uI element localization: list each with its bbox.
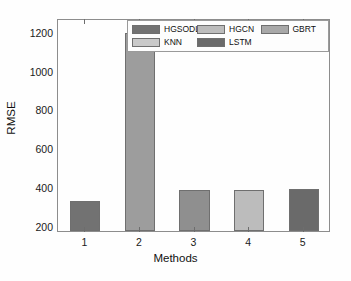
legend-swatch-icon [197, 38, 225, 47]
legend-swatch-icon [132, 38, 160, 47]
y-tick-label: 200 [5, 222, 53, 232]
x-axis-title: Methods [0, 252, 351, 264]
legend-entry: HGCN [197, 25, 261, 34]
legend-label: GBRT [293, 25, 316, 34]
bar [179, 190, 209, 231]
legend-label: LSTM [229, 38, 252, 47]
legend-row: KNNLSTM [132, 37, 324, 48]
x-tick-label: 2 [136, 236, 142, 248]
y-tick-label: 400 [5, 183, 53, 193]
bar [234, 190, 264, 231]
x-tick-mark [84, 227, 85, 232]
y-tick-label: 600 [5, 144, 53, 154]
legend-entry: HGSODL-TFF [132, 25, 197, 34]
x-tick-mark [139, 227, 140, 232]
y-tick-label: 1000 [5, 67, 53, 77]
x-tick-label: 3 [191, 236, 197, 248]
legend-swatch-icon [132, 25, 160, 34]
x-tick-mark [194, 227, 195, 232]
legend-row: HGSODL-TFFHGCNGBRT [132, 24, 324, 35]
legend-label: KNN [164, 38, 182, 47]
x-tick-mark [303, 227, 304, 232]
legend-entry: LSTM [197, 38, 262, 47]
x-tick-label: 4 [245, 236, 251, 248]
legend-entry: GBRT [261, 25, 325, 34]
figure-canvas: RMSE 20040060080010001200 12345 Methods … [0, 0, 351, 281]
bar [125, 33, 155, 231]
legend-swatch-icon [197, 25, 225, 34]
x-tick-mark-top [84, 19, 85, 24]
x-tick-label: 1 [81, 236, 87, 248]
legend-entry: KNN [132, 38, 197, 47]
legend-label: HGCN [229, 25, 254, 34]
y-tick-label: 800 [5, 105, 53, 115]
bar [289, 189, 319, 231]
x-tick-mark [248, 227, 249, 232]
legend-swatch-icon [261, 25, 289, 34]
x-tick-label: 5 [300, 236, 306, 248]
y-tick-label: 1200 [5, 28, 53, 38]
chart-legend: HGSODL-TFFHGCNGBRTKNNLSTM [127, 20, 329, 52]
